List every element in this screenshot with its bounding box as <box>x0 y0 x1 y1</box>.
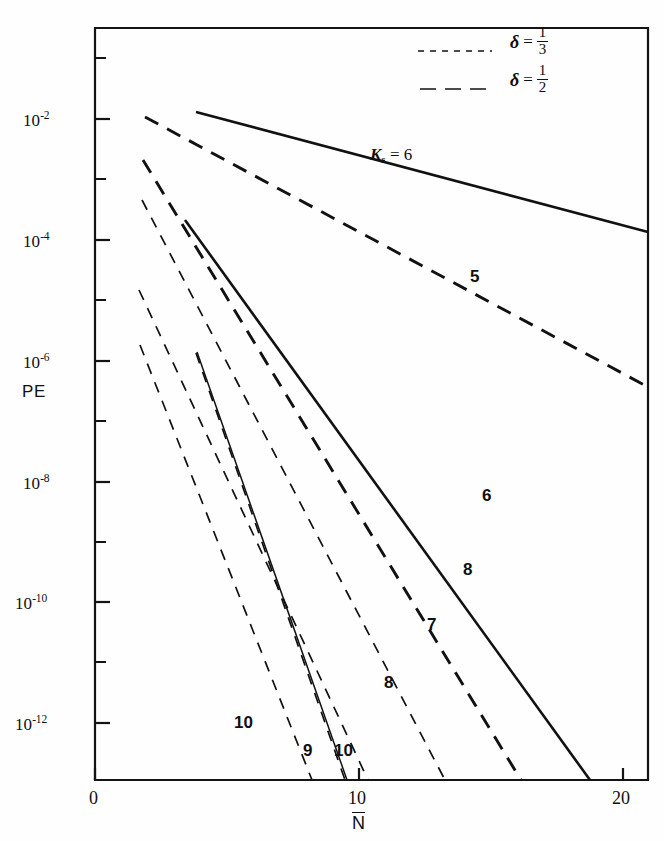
legend-label-delta-half: δ= 1 2 <box>510 64 548 97</box>
plot-frame <box>95 28 648 780</box>
y-tick-label-1e-10: 10-10 <box>15 593 47 612</box>
x-tick-label-0: 0 <box>89 789 98 807</box>
figure-canvas: 10-2 10-4 10-6 10-8 10-10 10-12 PE 0 10 … <box>0 0 664 841</box>
delta-symbol-2: δ <box>510 70 519 91</box>
curve-label-8-dotted: 8 <box>384 674 393 691</box>
x-axis-title: N <box>352 812 365 832</box>
legend-label-delta-third: δ= 1 3 <box>510 26 548 59</box>
y-tick-label-1e-8: 10-8 <box>23 473 49 492</box>
y-tick-label-1e-2: 10-2 <box>23 110 49 129</box>
x-tick-label-10: 10 <box>348 789 366 807</box>
x-tick-label-20: 20 <box>612 789 630 807</box>
fraction-one-half: 1 2 <box>537 63 549 96</box>
curve-ks9-dotted <box>196 353 345 780</box>
legend-row-delta-half: δ= 1 2 <box>418 66 628 104</box>
curve-label-ks-6: Ks = 6 <box>370 146 412 163</box>
equals-sign-2: = <box>519 70 537 90</box>
x-axis-title-text: N <box>352 812 365 832</box>
y-axis-title: PE <box>22 383 46 400</box>
curve-label-5: 5 <box>470 268 479 285</box>
legend: δ= 1 3 δ= 1 2 <box>418 28 628 108</box>
curve-label-6: 6 <box>482 487 491 504</box>
curve-label-10-left: 10 <box>234 714 253 731</box>
curve-label-7: 7 <box>427 616 436 633</box>
x-axis-ticks <box>95 768 623 780</box>
curve-ks10-dotted <box>140 345 312 780</box>
curve-ks10-solid <box>197 352 347 780</box>
delta-symbol-1: δ <box>510 32 519 53</box>
fraction-one-third: 1 3 <box>537 25 549 58</box>
y-tick-label-1e-6: 10-6 <box>23 352 49 371</box>
equals-sign-1: = <box>519 32 537 52</box>
chart-plot-area <box>0 0 664 841</box>
curve-ks7-dashed <box>142 200 445 780</box>
y-tick-label-1e-12: 10-12 <box>15 714 47 733</box>
curve-label-8-solid: 8 <box>463 561 472 578</box>
y-tick-label-1e-4: 10-4 <box>23 231 49 250</box>
curve-ks8-dotted <box>139 290 368 780</box>
curve-ks6-dashed <box>143 160 521 780</box>
legend-row-delta-third: δ= 1 3 <box>418 28 628 66</box>
curve-label-10-solid: 10 <box>334 742 353 759</box>
curve-ks6-solid <box>196 112 648 232</box>
curve-label-9: 9 <box>303 742 312 759</box>
curve-ks8-solid <box>185 220 590 780</box>
